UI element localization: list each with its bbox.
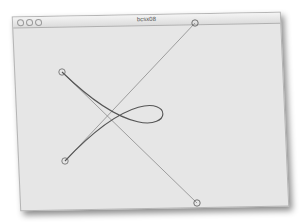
bezier-drawing — [0, 0, 301, 222]
guide-line-start — [62, 72, 197, 203]
